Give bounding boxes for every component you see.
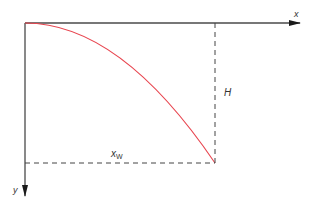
range-label: xW bbox=[110, 148, 123, 160]
range-label-subscript: W bbox=[116, 153, 123, 160]
y-axis-label: y bbox=[12, 185, 18, 195]
height-label: H bbox=[224, 87, 232, 98]
trajectory-diagram: x y H xW bbox=[0, 0, 315, 206]
trajectory-curve bbox=[25, 23, 215, 163]
x-axis-label: x bbox=[293, 9, 299, 19]
